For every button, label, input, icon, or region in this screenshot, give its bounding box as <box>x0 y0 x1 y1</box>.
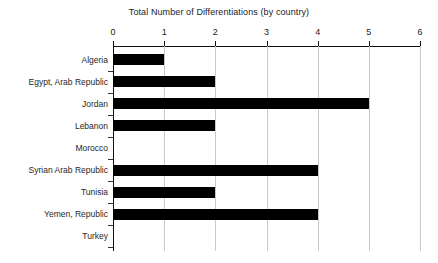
y-tick <box>108 181 113 182</box>
y-axis-label: Yemen, Republic <box>0 209 108 219</box>
y-axis-label: Jordan <box>0 99 108 109</box>
y-tick <box>108 225 113 226</box>
bar <box>113 98 369 109</box>
y-tick <box>108 93 113 94</box>
y-axis-label: Lebanon <box>0 121 108 131</box>
y-tick <box>108 247 113 248</box>
y-axis-label: Turkey <box>0 231 108 241</box>
bar <box>113 209 318 220</box>
y-axis-label: Morocco <box>0 143 108 153</box>
gridline-4 <box>318 46 319 251</box>
gridline-3 <box>267 46 268 251</box>
x-tick-label-3: 3 <box>255 27 279 37</box>
y-axis-label: Egypt, Arab Republic <box>0 77 108 87</box>
y-tick <box>108 71 113 72</box>
gridline-6 <box>420 46 421 251</box>
y-tick <box>108 137 113 138</box>
y-tick <box>108 203 113 204</box>
y-axis-label: Tunisia <box>0 187 108 197</box>
y-tick <box>108 159 113 160</box>
gridline-5 <box>369 46 370 251</box>
bar <box>113 165 318 176</box>
x-tick-label-6: 6 <box>408 27 432 37</box>
x-tick-label-2: 2 <box>203 27 227 37</box>
x-tick-label-4: 4 <box>306 27 330 37</box>
plot-area <box>113 46 420 251</box>
bar <box>113 54 164 65</box>
y-tick <box>108 115 113 116</box>
x-tick-label-1: 1 <box>152 27 176 37</box>
bar <box>113 76 215 87</box>
y-axis-label: Syrian Arab Republic <box>0 165 108 175</box>
bar <box>113 120 215 131</box>
y-axis-label: Algeria <box>0 55 108 65</box>
bar-chart: Total Number of Differentiations (by cou… <box>0 0 438 263</box>
gridline-2 <box>215 46 216 251</box>
bar <box>113 187 215 198</box>
y-axis-category-labels: AlgeriaEgypt, Arab RepublicJordanLebanon… <box>0 0 108 263</box>
x-tick-label-5: 5 <box>357 27 381 37</box>
